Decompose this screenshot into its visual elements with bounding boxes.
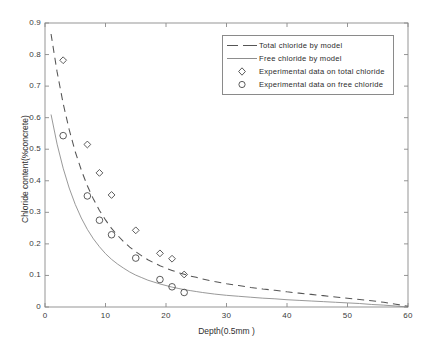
- data-point-free: [157, 276, 164, 283]
- dashed-line-icon: [225, 39, 259, 52]
- legend-label: Total chloride by model: [259, 41, 342, 50]
- y-tick-label: 0: [8, 302, 41, 311]
- data-point-total: [157, 250, 164, 257]
- series-line-free: [51, 115, 408, 307]
- data-point-total: [60, 57, 67, 64]
- solid-line-icon: [225, 52, 259, 65]
- y-tick-label: 0.2: [8, 239, 41, 248]
- circle-marker-icon: [225, 78, 259, 91]
- x-tick-label: 60: [393, 311, 423, 320]
- data-point-free: [60, 132, 67, 139]
- x-axis-title: Depth(0.5mm ): [127, 326, 327, 336]
- data-point-free: [132, 255, 139, 262]
- y-tick-label: 0.6: [8, 113, 41, 122]
- chart-legend: Total chloride by model Free chloride by…: [222, 35, 394, 95]
- y-tick-label: 0.8: [8, 50, 41, 59]
- y-tick-label: 0.4: [8, 176, 41, 185]
- legend-item: Experimental data on free chloride: [225, 78, 389, 91]
- y-tick-label: 0.7: [8, 81, 41, 90]
- legend-label: Experimental data on total chloride: [259, 67, 385, 76]
- data-point-free: [108, 231, 115, 238]
- data-point-total: [96, 169, 103, 176]
- data-point-free: [96, 217, 103, 224]
- data-point-total: [84, 141, 91, 148]
- y-tick-label: 0.5: [8, 144, 41, 153]
- data-point-total: [108, 192, 115, 199]
- y-tick-label: 0.3: [8, 207, 41, 216]
- legend-label: Free chloride by model: [259, 54, 342, 63]
- x-tick-label: 0: [30, 311, 60, 320]
- legend-item: Experimental data on total chloride: [225, 65, 389, 78]
- x-tick-label: 20: [151, 311, 181, 320]
- diamond-marker-icon: [225, 65, 259, 78]
- chart-figure: Chloride content(%concrete) Depth(0.5mm …: [0, 0, 435, 347]
- x-tick-label: 40: [272, 311, 302, 320]
- x-tick-label: 50: [333, 311, 363, 320]
- legend-item: Total chloride by model: [225, 39, 389, 52]
- x-tick-label: 10: [91, 311, 121, 320]
- legend-label: Experimental data on free chloride: [259, 80, 383, 89]
- data-point-free: [181, 289, 188, 296]
- y-tick-label: 0.9: [8, 18, 41, 27]
- legend-item: Free chloride by model: [225, 52, 389, 65]
- data-point-free: [84, 193, 91, 200]
- y-tick-label: 0.1: [8, 270, 41, 279]
- data-point-total: [132, 227, 139, 234]
- data-point-total: [169, 255, 176, 262]
- x-tick-label: 30: [212, 311, 242, 320]
